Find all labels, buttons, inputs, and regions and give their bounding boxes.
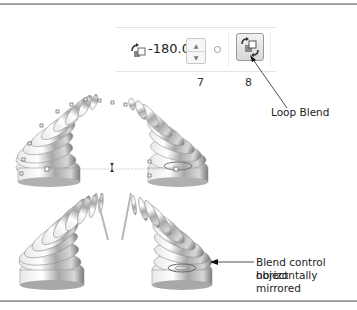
lower-slinky-blend (18, 193, 212, 290)
control-object-callout-line2: horizontally mirrored (256, 269, 357, 295)
loop-blend-callout: Loop Blend (271, 106, 329, 119)
loop-blend-leader-line (252, 58, 287, 108)
upper-slinky-blend (16, 93, 208, 187)
